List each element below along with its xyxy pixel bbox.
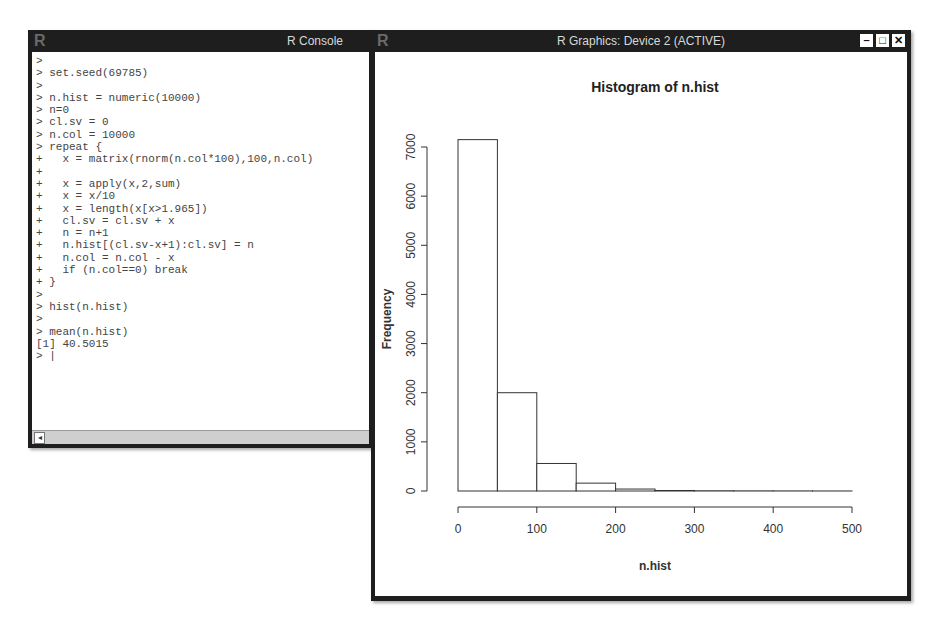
console-line: + } bbox=[36, 276, 369, 288]
console-line: > bbox=[36, 289, 369, 301]
histogram-bar bbox=[616, 489, 655, 491]
console-line: > mean(n.hist) bbox=[36, 326, 369, 338]
console-line: > | bbox=[36, 350, 369, 362]
console-line: + x = x/10 bbox=[36, 190, 369, 202]
x-tick-label: 100 bbox=[527, 522, 547, 536]
console-line: > n=0 bbox=[36, 104, 369, 116]
close-button[interactable]: ✕ bbox=[892, 34, 905, 47]
graphics-title: R Graphics: Device 2 (ACTIVE) bbox=[371, 34, 911, 48]
y-tick-label: 3000 bbox=[404, 330, 418, 357]
histogram-bar bbox=[497, 393, 536, 491]
y-tick-label: 0 bbox=[404, 487, 418, 494]
console-line: > bbox=[36, 55, 369, 67]
x-tick-label: 200 bbox=[606, 522, 626, 536]
y-tick-label: 1000 bbox=[404, 428, 418, 455]
histogram-chart: Histogram of n.hist010002000300040005000… bbox=[375, 52, 907, 596]
r-graphics-window[interactable]: R R Graphics: Device 2 (ACTIVE) – □ ✕ Hi… bbox=[371, 30, 911, 601]
console-line: + bbox=[36, 166, 369, 178]
console-line: + n = n+1 bbox=[36, 227, 369, 239]
console-line: > set.seed(69785) bbox=[36, 67, 369, 79]
x-tick-label: 0 bbox=[455, 522, 462, 536]
console-line: [1] 40.5015 bbox=[36, 338, 369, 350]
x-tick-label: 400 bbox=[763, 522, 783, 536]
console-line: + x = matrix(rnorm(n.col*100),100,n.col) bbox=[36, 153, 369, 165]
plot-area: Histogram of n.hist010002000300040005000… bbox=[375, 52, 907, 596]
console-output[interactable]: >> set.seed(69785)>> n.hist = numeric(10… bbox=[32, 52, 369, 362]
chart-title: Histogram of n.hist bbox=[591, 79, 719, 95]
horizontal-scrollbar[interactable]: ◂ bbox=[32, 430, 369, 444]
y-tick-label: 5000 bbox=[404, 232, 418, 259]
x-axis-label: n.hist bbox=[639, 559, 671, 573]
console-titlebar[interactable]: R R Console bbox=[28, 30, 373, 52]
console-line: + n.hist[(cl.sv-x+1):cl.sv] = n bbox=[36, 239, 369, 251]
scroll-left-icon[interactable]: ◂ bbox=[34, 432, 45, 444]
console-line: + cl.sv = cl.sv + x bbox=[36, 215, 369, 227]
r-console-window[interactable]: R R Console >> set.seed(69785)>> n.hist … bbox=[28, 30, 373, 448]
r-logo-icon: R bbox=[34, 32, 46, 50]
histogram-bar bbox=[458, 140, 497, 491]
console-line: + x = apply(x,2,sum) bbox=[36, 178, 369, 190]
histogram-bar bbox=[576, 483, 615, 491]
console-line: > cl.sv = 0 bbox=[36, 116, 369, 128]
console-line: > repeat { bbox=[36, 141, 369, 153]
console-line: > n.col = 10000 bbox=[36, 129, 369, 141]
y-axis-label: Frequency bbox=[380, 288, 394, 349]
console-body[interactable]: >> set.seed(69785)>> n.hist = numeric(10… bbox=[32, 52, 369, 444]
y-tick-label: 4000 bbox=[404, 281, 418, 308]
console-line: > n.hist = numeric(10000) bbox=[36, 92, 369, 104]
graphics-titlebar[interactable]: R R Graphics: Device 2 (ACTIVE) – □ ✕ bbox=[371, 30, 911, 52]
maximize-button[interactable]: □ bbox=[876, 34, 889, 47]
minimize-button[interactable]: – bbox=[860, 34, 873, 47]
console-line: > bbox=[36, 313, 369, 325]
console-line: + x = length(x[x>1.965]) bbox=[36, 203, 369, 215]
console-title: R Console bbox=[287, 34, 343, 48]
histogram-bar bbox=[537, 463, 576, 491]
console-line: > hist(n.hist) bbox=[36, 301, 369, 313]
console-line: > bbox=[36, 80, 369, 92]
y-tick-label: 7000 bbox=[404, 133, 418, 160]
console-line: + n.col = n.col - x bbox=[36, 252, 369, 264]
console-line: + if (n.col==0) break bbox=[36, 264, 369, 276]
y-tick-label: 2000 bbox=[404, 379, 418, 406]
y-tick-label: 6000 bbox=[404, 182, 418, 209]
x-tick-label: 300 bbox=[684, 522, 704, 536]
x-tick-label: 500 bbox=[842, 522, 862, 536]
